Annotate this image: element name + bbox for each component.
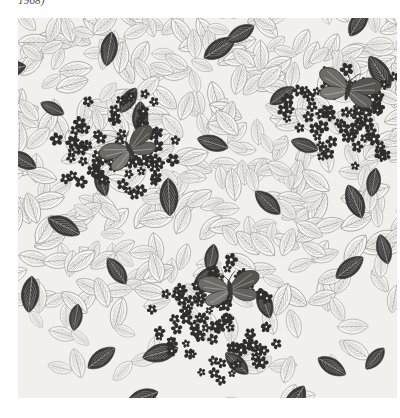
plate-caption-clip: 1968): [0, 0, 400, 8]
pattern-artwork: [18, 18, 397, 398]
plate-caption: 1968): [18, 0, 45, 6]
pattern-swatch: [18, 18, 397, 398]
pattern-plate: 1968): [0, 0, 400, 418]
